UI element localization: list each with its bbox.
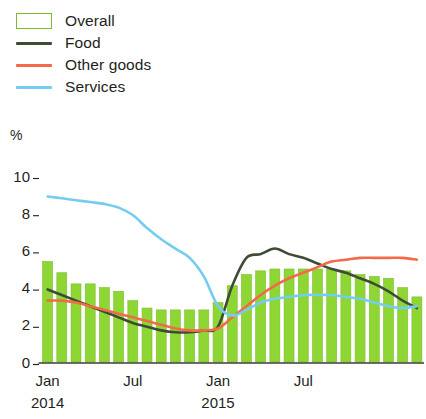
x-tick-year-label: 2014 <box>31 394 64 411</box>
legend-label-services: Services <box>65 79 125 95</box>
chart-legend: Overall Food Other goods Services <box>16 10 246 98</box>
bar-series-overall <box>43 262 422 362</box>
legend-item-services: Services <box>16 76 246 98</box>
y-tick-label: 6 <box>22 242 30 259</box>
y-tick-label: 8 <box>22 205 30 222</box>
bar <box>284 269 294 362</box>
x-tick-label: Jan <box>36 372 60 389</box>
bar <box>355 275 365 362</box>
y-tick-label: 4 <box>22 279 30 296</box>
bar <box>57 273 67 362</box>
x-axis-line <box>33 363 424 365</box>
bar <box>298 269 308 362</box>
bar <box>256 271 266 362</box>
chart-plot-area: % 1086420 Jan2014JulJan2015Jul <box>0 128 426 419</box>
x-tick-label: Jul <box>294 372 313 389</box>
x-tick-label: Jan <box>206 372 230 389</box>
legend-item-food: Food <box>16 32 246 54</box>
legend-line-food <box>16 35 52 51</box>
x-tick-label: Jul <box>123 372 142 389</box>
bar <box>142 308 152 362</box>
bar <box>99 288 109 362</box>
bar <box>71 284 81 362</box>
legend-swatch-overall <box>16 13 52 29</box>
bar <box>327 269 337 362</box>
chart-canvas: 1086420 Jan2014JulJan2015Jul <box>0 128 426 419</box>
x-axis-ticks: Jan2014JulJan2015Jul <box>31 372 313 411</box>
legend-line-other-goods <box>16 57 52 73</box>
chart-figure: Overall Food Other goods Services % 1086… <box>0 0 426 419</box>
y-tick-label: 0 <box>22 354 30 371</box>
bar <box>341 271 351 362</box>
bar <box>369 276 379 362</box>
bar <box>85 284 95 362</box>
legend-label-other-goods: Other goods <box>65 57 151 73</box>
legend-item-overall: Overall <box>16 10 246 32</box>
legend-label-overall: Overall <box>65 13 115 29</box>
bar <box>43 262 53 362</box>
bar <box>114 291 124 362</box>
x-tick-year-label: 2015 <box>201 394 234 411</box>
bar <box>185 310 195 362</box>
bar <box>199 310 209 362</box>
y-tick-label: 10 <box>13 168 30 185</box>
bar <box>170 310 180 362</box>
y-tick-label: 2 <box>22 316 30 333</box>
bar <box>313 269 323 362</box>
legend-label-food: Food <box>65 35 101 51</box>
y-axis-ticks: 1086420 <box>13 168 39 371</box>
bar <box>128 301 138 362</box>
bar <box>241 275 251 362</box>
legend-item-other-goods: Other goods <box>16 54 246 76</box>
bar <box>156 310 166 362</box>
legend-line-services <box>16 79 52 95</box>
